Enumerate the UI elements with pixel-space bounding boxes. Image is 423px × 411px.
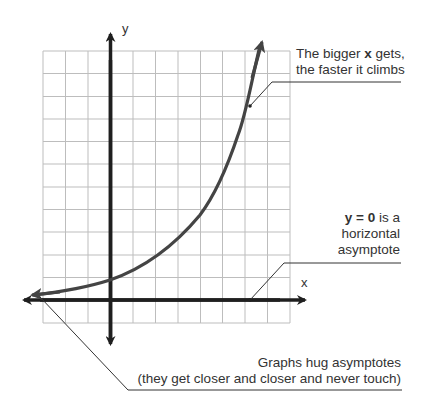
growth-line1-pre: The bigger (296, 46, 364, 61)
svg-text:y = 0 is a: y = 0 is a (345, 210, 401, 225)
grid (43, 51, 290, 323)
growth-line1-post: gets, (372, 46, 405, 61)
exponential-graph-diagram: y x The bigger x gets, the faster (0, 0, 423, 411)
curve-left-arrowhead (32, 292, 60, 295)
asymptote-line3: asymptote (338, 242, 400, 257)
asymptote-line1-bold: y = 0 (345, 210, 375, 225)
y-axis-label: y (122, 21, 129, 36)
hug-line1: Graphs hug asymptotes (258, 355, 402, 370)
growth-leader-line (250, 82, 401, 106)
asymptote-line1-post: is a (375, 210, 400, 225)
curve-top-arrowhead (252, 42, 262, 78)
hug-annotation: Graphs hug asymptotes (they get closer a… (138, 355, 402, 386)
exponential-curve (34, 46, 260, 295)
asymptote-leader-line (250, 263, 401, 300)
svg-text:The bigger x gets,: The bigger x gets, (296, 46, 405, 61)
hug-line2: (they get closer and closer and never to… (138, 371, 401, 386)
x-axis-label: x (301, 275, 308, 290)
asymptote-line2: horizontal (341, 226, 400, 241)
growth-line2: the faster it climbs (296, 62, 405, 77)
growth-annotation: The bigger x gets, the faster it climbs (296, 46, 405, 77)
asymptote-annotation: y = 0 is a horizontal asymptote (338, 210, 401, 257)
